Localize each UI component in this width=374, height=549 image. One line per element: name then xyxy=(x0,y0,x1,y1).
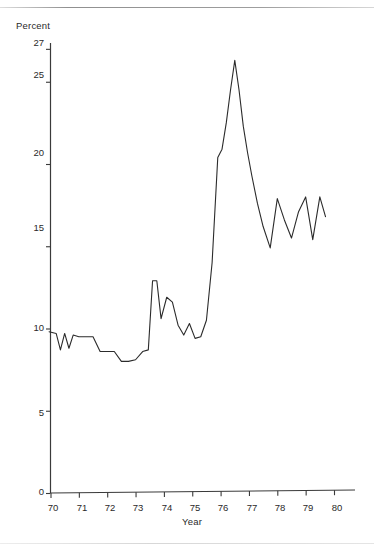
x-axis xyxy=(51,490,356,498)
y-tick-marks xyxy=(46,49,51,493)
data-series-line xyxy=(49,60,325,361)
y-axis xyxy=(46,43,51,494)
chart-plot-area xyxy=(0,0,374,549)
chart-figure: Percent Year 27 25 20 15 10 5 0 70 71 72… xyxy=(0,0,374,549)
